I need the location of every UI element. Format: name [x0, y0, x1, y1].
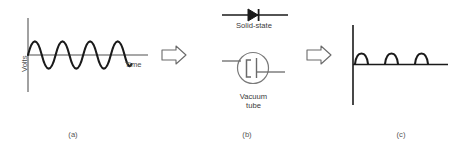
panel-c-graph — [353, 25, 448, 105]
arrow-b-to-c — [307, 46, 331, 64]
solid-state-label: Solid-state — [230, 21, 278, 30]
panel-c-hump-1 — [355, 54, 368, 65]
panel-a-y-axis-label: Volts — [20, 56, 29, 72]
vacuum-tube-symbol — [222, 53, 285, 84]
panel-caption-c: (c) — [394, 130, 408, 139]
vacuum-tube-label-line1: Vacuum — [232, 92, 275, 101]
panel-caption-a: (a) — [66, 130, 80, 139]
panel-c-hump-2 — [385, 54, 398, 65]
tube-envelope-circle — [238, 53, 269, 84]
solid-state-diode-symbol — [222, 9, 288, 21]
diode-anode-triangle — [248, 9, 258, 21]
panel-caption-b: (b) — [240, 130, 254, 139]
rectification-figure: Volts Time Solid-state Vacuum tube (a) (… — [0, 0, 456, 152]
arrow-a-to-b — [162, 46, 186, 64]
vacuum-tube-label-line2: tube — [232, 101, 275, 110]
tube-cathode-bracket — [247, 60, 252, 77]
block-arrow-icon — [307, 46, 331, 64]
panel-a-graph — [28, 18, 148, 92]
panel-c-hump-3 — [415, 54, 428, 65]
panel-a-x-axis-label: Time — [125, 60, 142, 69]
block-arrow-icon — [162, 46, 186, 64]
